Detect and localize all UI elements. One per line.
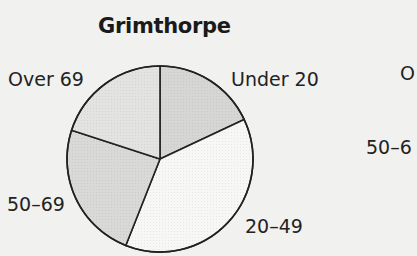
- label-20-49: 20–49: [245, 215, 303, 237]
- label-over-69: Over 69: [8, 68, 84, 90]
- pie-chart: [0, 0, 417, 256]
- label-under-20: Under 20: [231, 68, 319, 90]
- clipped-label-top: O: [400, 62, 415, 84]
- clipped-label-mid: 50–6: [366, 136, 412, 158]
- pie-slices: [67, 66, 253, 252]
- label-50-69: 50–69: [7, 193, 65, 215]
